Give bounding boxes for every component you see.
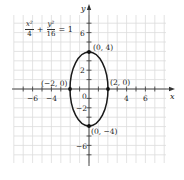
annotation-bottom: (0, −4) xyxy=(91,127,118,136)
x-tick-label: −4 xyxy=(46,94,57,103)
x-axis-arrow-icon xyxy=(169,87,175,91)
y-axis-arrow-icon xyxy=(87,4,91,10)
fraction-denominator: 4 xyxy=(27,30,31,38)
annotation-top: (0, 4) xyxy=(93,43,113,52)
x-tick-label: 6 xyxy=(143,94,148,103)
fraction-numerator: x² xyxy=(25,21,34,30)
x-axis-label: x xyxy=(170,92,175,101)
vertex-point-left xyxy=(68,87,72,91)
vertex-point-right xyxy=(106,87,110,91)
equation-label: x² 4 + y² 16 = 1 xyxy=(25,21,73,38)
y-tick-label: 2 xyxy=(80,66,85,75)
y-tick-label: −2 xyxy=(76,104,87,113)
origin-label: 0 xyxy=(82,92,87,101)
x-tick-label: −6 xyxy=(27,94,38,103)
fraction-numerator: y² xyxy=(47,21,56,30)
plus-sign: + xyxy=(37,25,44,34)
vertex-point-top xyxy=(87,50,91,54)
equals-sign: = 1 xyxy=(58,25,72,34)
fraction-x: x² 4 xyxy=(25,21,34,38)
annotation-left: (−2, 0) xyxy=(41,79,68,88)
y-tick-label: 6 xyxy=(80,29,85,38)
annotation-right: (2, 0) xyxy=(110,78,130,87)
y-axis-label: y xyxy=(80,4,86,13)
fraction-denominator: 16 xyxy=(46,30,55,38)
fraction-y: y² 16 xyxy=(46,21,55,38)
x-tick-label: 4 xyxy=(124,94,129,103)
y-tick-label: −6 xyxy=(76,142,87,151)
